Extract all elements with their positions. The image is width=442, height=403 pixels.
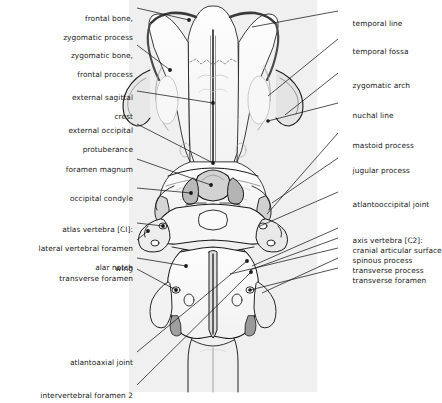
label-line: jugular process: [353, 166, 410, 175]
label-line: atlas vertebra [CI]:: [62, 225, 133, 234]
label-zygomatic-arch: zygomatic arch: [343, 71, 410, 100]
label-intervertebral-foramen-2: intervertebral foramen 2: [0, 381, 133, 403]
label-line: lateral vertebral foramen: [39, 244, 133, 253]
label-line: frontal bone,: [85, 14, 133, 23]
label-line: mastoid process: [353, 141, 414, 150]
label-line: intervertebral foramen 2: [40, 391, 133, 400]
label-line: zygomatic arch: [353, 81, 410, 90]
label-transverse-foramen-c1: transverse foramen: [0, 264, 133, 293]
label-line: frontal process: [77, 70, 133, 79]
label-line: zygomatic bone,: [71, 51, 133, 60]
label-zygomatic-bone-frontal-process: zygomatic bone, frontal process: [0, 41, 133, 89]
label-occipital-condyle: occipital condyle: [0, 184, 133, 213]
label-atlantoaxial-joint: atlantoaxial joint: [0, 348, 133, 377]
label-line: temporal fossa: [353, 47, 409, 56]
label-line: external sagittal: [72, 93, 133, 102]
label-line: transverse foramen: [59, 274, 133, 283]
label-line: external occipital: [68, 126, 133, 135]
label-line: atlantooccipital joint: [353, 200, 430, 209]
label-line: temporal line: [353, 19, 403, 28]
label-temporal-line: temporal line: [343, 9, 402, 38]
label-jugular-process: jugular process: [343, 156, 410, 185]
label-line: nuchal line: [353, 111, 394, 120]
label-line: atlantoaxial joint: [70, 358, 133, 367]
label-nuchal-line: nuchal line: [343, 101, 394, 130]
label-transverse-foramen-c2: transverse foramen: [343, 266, 426, 295]
label-foramen-magnum: foramen magnum: [0, 155, 133, 184]
label-atlantooccipital-joint: atlantooccipital joint: [343, 190, 429, 219]
label-temporal-fossa: temporal fossa: [343, 37, 409, 66]
label-line: foramen magnum: [66, 165, 133, 174]
label-line: transverse foramen: [353, 276, 427, 285]
label-line: occipital condyle: [70, 194, 133, 203]
label-line: protuberance: [83, 145, 133, 154]
